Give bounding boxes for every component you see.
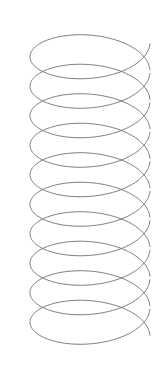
coil-turns-group xyxy=(30,35,150,345)
coil-turn xyxy=(30,153,150,197)
coil-turn xyxy=(30,123,150,167)
coil-turn xyxy=(30,241,150,285)
coil-turn xyxy=(30,35,150,79)
coil-figure xyxy=(0,0,162,370)
coil-turn xyxy=(30,212,150,256)
coil-turn xyxy=(30,94,150,138)
coil-turn xyxy=(30,64,150,108)
coil-turn xyxy=(30,300,150,344)
coil-drawing xyxy=(0,0,162,370)
coil-turn xyxy=(30,271,150,315)
coil-turn xyxy=(30,182,150,226)
